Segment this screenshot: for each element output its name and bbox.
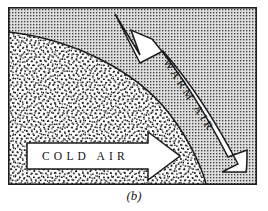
figure-panel: WARM AIR COLD AIR (b) (0, 0, 268, 211)
weather-front-diagram: WARM AIR COLD AIR (0, 0, 268, 211)
figure-caption: (b) (0, 188, 268, 204)
cold-air-arrow-label: COLD AIR (42, 150, 129, 162)
cold-air-label-text: COLD AIR (42, 150, 129, 162)
